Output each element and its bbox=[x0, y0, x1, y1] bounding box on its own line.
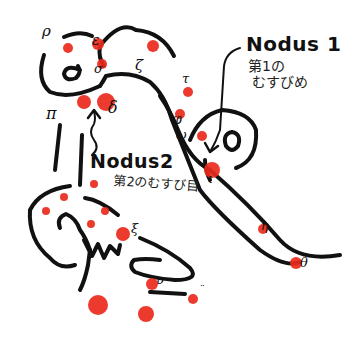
label-sigma: σ bbox=[94, 62, 103, 75]
marker-dot bbox=[101, 207, 109, 215]
label-phi: φ bbox=[172, 112, 182, 126]
knot-diagram: ρ ε ζ σ δ π τ φ ω ι ξ υ η θ ¨ Nodus 1 第1… bbox=[0, 0, 362, 343]
marker-dot bbox=[63, 43, 73, 53]
marker-dot bbox=[116, 227, 130, 241]
label-rho: ρ bbox=[42, 24, 51, 39]
nodus1-title: Nodus 1 bbox=[246, 34, 341, 54]
nodus2-title: Nodus2 bbox=[90, 152, 174, 171]
marker-dot bbox=[90, 180, 98, 188]
marker-dot bbox=[197, 131, 207, 141]
label-tau: τ bbox=[182, 72, 189, 85]
label-iota: ι bbox=[208, 172, 213, 185]
label-eta: η bbox=[261, 220, 268, 232]
label-xi: ξ bbox=[131, 222, 138, 235]
marker-dot bbox=[87, 220, 95, 228]
marker-dot bbox=[138, 306, 154, 322]
nodus1-subtitle: 第1の むすびめ bbox=[248, 58, 308, 90]
label-pi: π bbox=[46, 106, 57, 122]
marker-dot bbox=[188, 294, 198, 304]
label-theta: θ bbox=[300, 256, 308, 269]
marker-dot bbox=[42, 207, 50, 215]
marker-dot bbox=[77, 95, 91, 109]
label-upsilon: υ bbox=[156, 273, 164, 286]
marker-dot bbox=[147, 40, 159, 52]
label-dots: ¨ bbox=[199, 284, 204, 294]
marker-dot bbox=[88, 295, 108, 315]
label-epsilon: ε bbox=[92, 33, 100, 47]
label-omega: ω bbox=[176, 128, 187, 141]
marker-dot bbox=[183, 87, 193, 97]
marker-dot bbox=[60, 193, 68, 201]
label-delta: δ bbox=[108, 100, 118, 116]
label-zeta: ζ bbox=[135, 58, 143, 73]
